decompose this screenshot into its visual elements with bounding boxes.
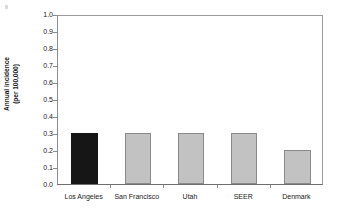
y-axis-tick-label: 0.0 xyxy=(30,180,53,190)
y-axis-tick-mark xyxy=(53,151,57,152)
x-axis-tick-mark xyxy=(163,185,164,188)
plot-area xyxy=(57,15,323,185)
y-axis-tick-mark xyxy=(53,15,57,16)
y-axis-tick-label: 0.5 xyxy=(30,95,53,105)
y-axis-tick-mark xyxy=(53,100,57,101)
y-axis-tick-mark xyxy=(53,66,57,67)
y-axis-tick-label: 0.2 xyxy=(30,146,53,156)
y-axis-tick-mark xyxy=(53,134,57,135)
y-axis-title-line-1: Annual incidence xyxy=(3,41,12,127)
y-axis-tick-mark xyxy=(53,49,57,50)
bar-seer xyxy=(231,133,258,184)
x-axis-tick-mark xyxy=(270,185,271,188)
bar-utah xyxy=(178,133,205,184)
y-axis-title: Annual incidence (per 100,000) xyxy=(3,41,25,127)
x-axis-label-denmark: Denmark xyxy=(270,191,323,202)
y-axis-tick-labels: 1.00.90.80.70.60.50.40.30.20.10.0 xyxy=(30,15,53,185)
y-axis-tick-label: 0.8 xyxy=(30,44,53,54)
y-axis-tick-label: 0.3 xyxy=(30,129,53,139)
x-axis-category-labels: Los AngelesSan FranciscoUtahSEERDenmark xyxy=(57,191,323,205)
y-axis-tick-mark xyxy=(53,117,57,118)
y-axis-tick-label: 0.9 xyxy=(30,27,53,37)
y-axis-tick-mark xyxy=(53,32,57,33)
y-axis-tick-label: 0.1 xyxy=(30,163,53,173)
y-axis-tick-mark xyxy=(53,83,57,84)
y-axis-tick-mark xyxy=(53,168,57,169)
bar-chart-figure: Annual incidence (per 100,000) 1.00.90.8… xyxy=(0,0,344,218)
scan-artifact-speck xyxy=(5,5,8,9)
y-axis-tick-label: 0.7 xyxy=(30,61,53,71)
y-axis-tick-label: 0.4 xyxy=(30,112,53,122)
y-axis-title-line-2: (per 100,000) xyxy=(12,41,21,127)
x-axis-label-los-angeles: Los Angeles xyxy=(57,191,110,202)
x-axis-tick-mark xyxy=(110,185,111,188)
bar-series xyxy=(58,16,322,184)
x-axis-label-san-francisco: San Francisco xyxy=(110,191,163,202)
x-axis-label-seer: SEER xyxy=(217,191,270,202)
x-axis-label-utah: Utah xyxy=(163,191,216,202)
bar-denmark xyxy=(284,150,311,184)
bar-san-francisco xyxy=(125,133,152,184)
bar-los-angeles xyxy=(71,133,98,184)
x-axis-tick-mark xyxy=(217,185,218,188)
y-axis-tick-label: 0.6 xyxy=(30,78,53,88)
y-axis-tick-label: 1.0 xyxy=(30,10,53,20)
